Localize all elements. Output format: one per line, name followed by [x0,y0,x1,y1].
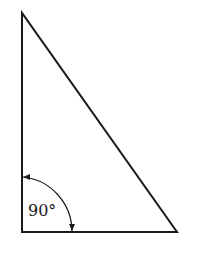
triangle [22,13,177,232]
arc-arrowhead-bottom [69,224,75,231]
right-triangle-diagram: 90° [0,0,204,254]
arc-arrowhead-top [23,174,30,180]
angle-label: 90° [28,201,56,220]
